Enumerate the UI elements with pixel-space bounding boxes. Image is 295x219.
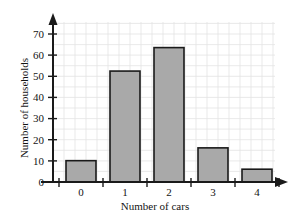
bar-category-3 <box>198 148 228 182</box>
x-tick-label-1: 1 <box>113 186 137 198</box>
x-axis-title: Number of cars <box>45 200 265 212</box>
y-axis-arrow-icon <box>49 13 58 25</box>
x-tick-label-4: 4 <box>245 186 269 198</box>
x-axis-arrow-icon <box>275 177 288 187</box>
x-tick-label-2: 2 <box>157 186 181 198</box>
x-tick-label-0: 0 <box>69 186 93 198</box>
bar-category-2 <box>154 48 184 182</box>
y-axis-title: Number of households <box>18 33 30 183</box>
bar-category-4 <box>242 169 272 182</box>
bar-chart: 0 10 20 30 40 50 60 70 0 1 2 3 4 Number … <box>0 0 295 219</box>
x-tick-label-3: 3 <box>201 186 225 198</box>
bar-category-0 <box>66 161 96 182</box>
bar-category-1 <box>110 71 140 182</box>
